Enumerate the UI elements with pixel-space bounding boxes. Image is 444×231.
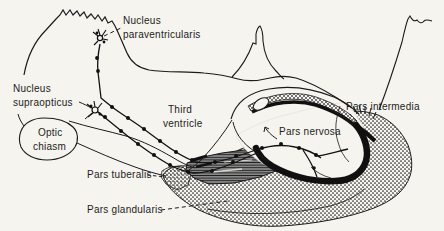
label-nucleus-paraventricularis: Nucleus paraventricularis [123, 14, 201, 42]
label-pars-glandularis: Pars glandularis [87, 203, 163, 217]
label-optic-chiasm: Optic chiasm [33, 126, 66, 154]
label-line: Third [168, 103, 203, 117]
diagram-canvas: Nucleus paraventricularis Nucleus suprao… [0, 0, 444, 231]
label-line: Pars glandularis [87, 203, 163, 217]
label-line: chiasm [33, 140, 66, 154]
label-line: Pars tuberalis [87, 168, 152, 182]
paraventricular-neuron [93, 29, 108, 45]
label-third-ventricle: Third ventricle [163, 103, 203, 131]
leader-nucleus-supraopticus [79, 102, 91, 108]
third-ventricle-peak [232, 26, 284, 79]
label-line: Pars intermedia [346, 100, 420, 114]
label-nucleus-supraopticus: Nucleus supraopticus [13, 82, 73, 110]
anatomy-drawing [0, 0, 444, 231]
label-line: ventricle [163, 117, 203, 131]
label-pars-intermedia: Pars intermedia [346, 100, 420, 114]
label-pars-nervosa: Pars nervosa [279, 125, 341, 139]
label-line: Pars nervosa [279, 125, 341, 139]
label-line: Optic [38, 126, 66, 140]
label-line: Nucleus [123, 14, 201, 28]
label-pars-tuberalis: Pars tuberalis [87, 168, 152, 182]
label-line: paraventricularis [123, 28, 201, 42]
right-wall-curve [379, 16, 432, 110]
label-line: Nucleus [13, 82, 73, 96]
label-line: supraopticus [13, 96, 73, 110]
